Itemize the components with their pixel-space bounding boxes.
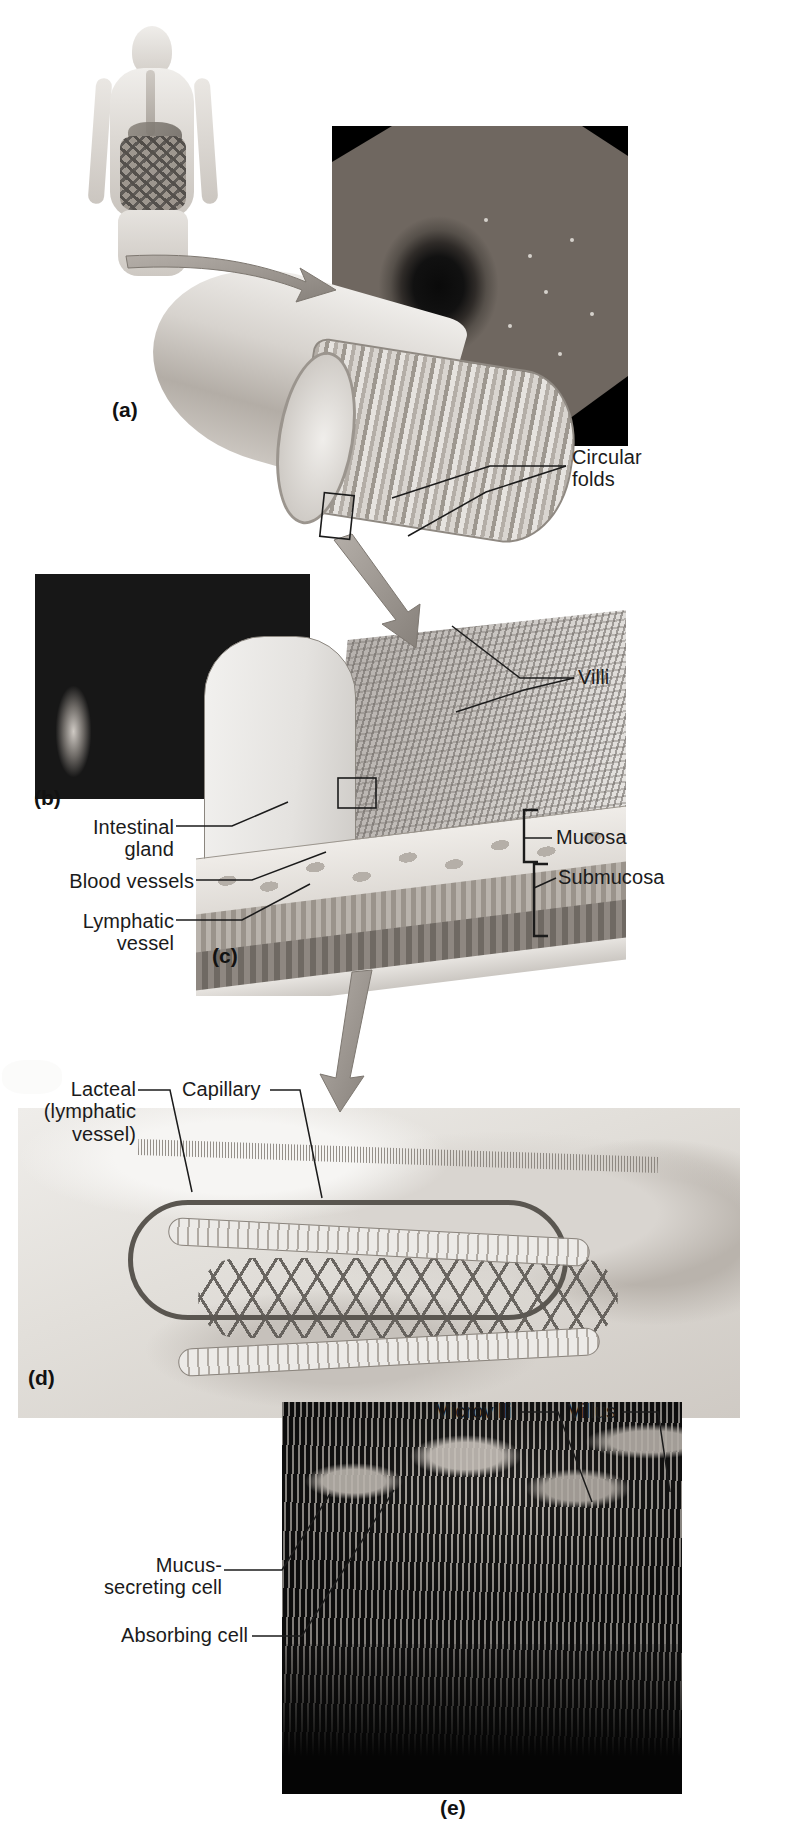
label-lymphatic-vessel: Lymphatic vessel xyxy=(12,910,174,955)
label-blood-vessels: Blood vessels xyxy=(12,870,194,892)
label-submucosa: Submucosa xyxy=(558,866,665,888)
panel-label-d: (d) xyxy=(28,1366,55,1390)
capillary-network xyxy=(198,1258,618,1338)
label-mucus-secreting-cell: Mucus- secreting cell xyxy=(10,1554,222,1599)
panel-label-e: (e) xyxy=(440,1796,466,1820)
microvilli-top-surface xyxy=(282,1402,682,1582)
figure-root: Circular folds Villi Mucosa Submucosa In… xyxy=(0,0,792,1834)
illus-tube xyxy=(150,255,580,555)
label-microvilli: Microvilli xyxy=(434,1400,512,1422)
panel-label-a: (a) xyxy=(112,398,138,422)
photo-corner xyxy=(582,126,628,156)
figure-arm-left xyxy=(88,78,113,205)
illus-wall xyxy=(196,596,626,996)
label-lacteal: Lacteal (lymphatic vessel) xyxy=(4,1078,136,1145)
label-mucosa: Mucosa xyxy=(556,826,627,848)
photo-corner xyxy=(332,126,392,162)
label-intestinal-gland: Intestinal gland xyxy=(12,816,174,861)
figure-arm-right xyxy=(194,78,219,205)
panel-label-c: (c) xyxy=(212,944,238,968)
small-intestine-coils xyxy=(120,136,186,210)
label-villi: Villi xyxy=(578,666,609,688)
photo-sem-microvilli xyxy=(282,1402,682,1794)
label-absorbing-cell: Absorbing cell xyxy=(10,1624,248,1646)
micrograph-shadow xyxy=(282,1644,682,1794)
label-capillary: Capillary xyxy=(182,1078,261,1100)
label-circular-folds: Circular folds xyxy=(572,446,642,491)
label-villus: Villus xyxy=(568,1400,616,1422)
illus-villus xyxy=(18,1108,740,1418)
panel-label-b: (b) xyxy=(34,786,61,810)
illus-human xyxy=(58,18,248,286)
